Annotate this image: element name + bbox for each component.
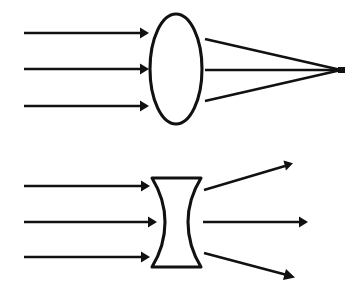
focal-point-marker xyxy=(338,67,345,73)
incoming-ray-top xyxy=(24,181,150,192)
converging-incoming-rays xyxy=(24,28,149,112)
diverging-lens-diagram xyxy=(24,161,308,281)
incoming-ray-middle xyxy=(24,64,149,75)
converging-lens-diagram xyxy=(24,14,345,124)
incoming-ray-middle xyxy=(24,217,157,228)
incoming-ray-top-arrowhead xyxy=(140,28,149,39)
refracted-ray-bottom xyxy=(205,70,341,101)
concave-lens-icon xyxy=(152,178,201,267)
incoming-ray-middle-arrowhead xyxy=(148,217,157,228)
optics-canvas xyxy=(0,0,354,292)
diverging-outgoing-rays xyxy=(203,161,308,281)
incoming-ray-top xyxy=(24,28,149,39)
incoming-ray-top-arrowhead xyxy=(141,181,150,192)
diverged-ray-bottom-arrowhead xyxy=(283,269,295,280)
diverged-ray-middle xyxy=(203,217,308,228)
diverged-ray-top-shaft xyxy=(204,166,285,190)
incoming-ray-middle-arrowhead xyxy=(140,64,149,75)
diverged-ray-middle-arrowhead xyxy=(299,217,308,228)
convex-lens-icon xyxy=(150,14,202,124)
diverged-ray-top xyxy=(204,161,293,191)
incoming-ray-bottom xyxy=(24,252,150,263)
diverged-ray-bottom xyxy=(204,253,295,280)
diverged-ray-top-arrowhead xyxy=(284,161,294,171)
incoming-ray-bottom-arrowhead xyxy=(141,252,150,263)
refracted-ray-top xyxy=(205,39,341,70)
optics-ray-diagram-figure xyxy=(0,0,354,292)
incoming-ray-bottom xyxy=(24,101,149,112)
diverged-ray-bottom-shaft xyxy=(204,253,287,275)
incoming-ray-bottom-arrowhead xyxy=(140,101,149,112)
diverging-incoming-rays xyxy=(24,181,157,263)
converging-outgoing-rays xyxy=(205,39,341,101)
